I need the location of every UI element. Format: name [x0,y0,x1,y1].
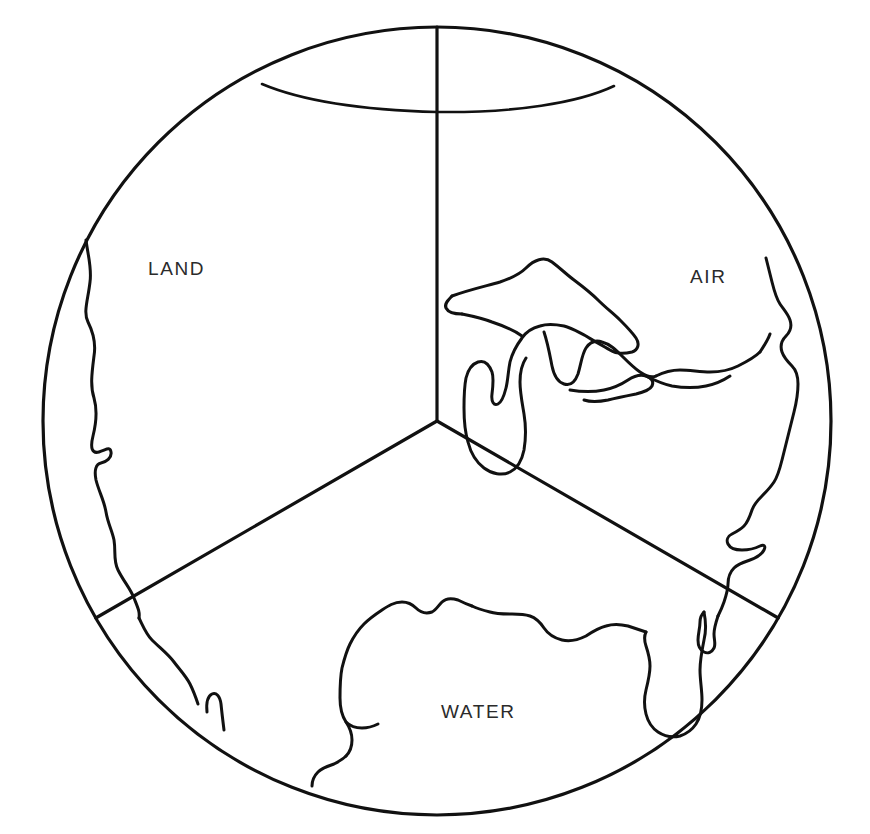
figure-root: LAND AIR WATER [0,0,870,834]
sector-label-land: LAND [148,258,205,279]
land-air-water-diagram: LAND AIR WATER [0,0,870,834]
sector-label-air: AIR [690,266,726,287]
canvas-background [0,0,870,834]
sector-label-water: WATER [441,701,516,722]
